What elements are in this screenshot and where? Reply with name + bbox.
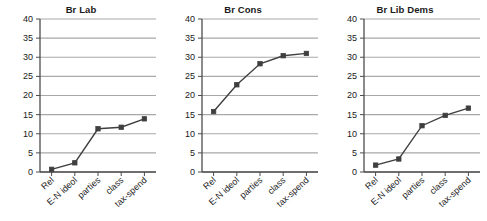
data-point-marker xyxy=(96,127,100,131)
y-tick-label: 15 xyxy=(23,110,33,120)
y-tick-label: 5 xyxy=(352,148,357,158)
multi-panel-line-chart: Br Lab0510152025303540RelE-N ideolpartie… xyxy=(0,0,487,221)
x-tick-label: Rel xyxy=(363,175,380,191)
y-tick-label: 10 xyxy=(347,129,357,139)
x-tick-label: parties xyxy=(238,175,265,201)
series-line xyxy=(376,108,469,165)
data-point-marker xyxy=(142,117,146,121)
y-tick-label: 5 xyxy=(28,148,33,158)
y-tick-label: 20 xyxy=(23,90,33,100)
y-tick-label: 30 xyxy=(185,52,195,62)
y-tick-label: 25 xyxy=(23,71,33,81)
plot-area: 0510152025303540RelE-N ideolpartiesclass… xyxy=(0,0,162,221)
y-tick-label: 20 xyxy=(185,90,195,100)
y-tick-label: 40 xyxy=(185,14,195,24)
data-point-marker xyxy=(281,54,285,58)
data-point-marker xyxy=(466,106,470,110)
y-tick-label: 15 xyxy=(185,110,195,120)
y-tick-label: 10 xyxy=(23,129,33,139)
y-tick-label: 35 xyxy=(23,33,33,43)
y-tick-label: 25 xyxy=(185,71,195,81)
data-point-marker xyxy=(235,83,239,87)
data-point-marker xyxy=(304,51,308,55)
data-point-marker xyxy=(373,163,377,167)
chart-panel: Br Lib Dems0510152025303540RelE-N ideolp… xyxy=(324,0,486,221)
plot-area: 0510152025303540RelE-N ideolpartiesclass… xyxy=(324,0,486,221)
y-tick-label: 20 xyxy=(347,90,357,100)
chart-panel: Br Cons0510152025303540RelE-N ideolparti… xyxy=(162,0,324,221)
y-tick-label: 30 xyxy=(347,52,357,62)
y-tick-label: 0 xyxy=(28,167,33,177)
chart-panel: Br Lab0510152025303540RelE-N ideolpartie… xyxy=(0,0,162,221)
y-tick-label: 15 xyxy=(347,110,357,120)
data-point-marker xyxy=(211,109,215,113)
plot-area: 0510152025303540RelE-N ideolpartiesclass… xyxy=(162,0,324,221)
data-point-marker xyxy=(443,113,447,117)
x-tick-label: Rel xyxy=(39,175,56,191)
x-tick-label: Rel xyxy=(201,175,218,191)
x-tick-label: parties xyxy=(400,175,427,201)
y-tick-label: 40 xyxy=(347,14,357,24)
data-point-marker xyxy=(258,62,262,66)
y-tick-label: 25 xyxy=(347,71,357,81)
y-tick-label: 5 xyxy=(190,148,195,158)
y-tick-label: 10 xyxy=(185,129,195,139)
y-tick-label: 40 xyxy=(23,14,33,24)
data-point-marker xyxy=(49,167,53,171)
data-point-marker xyxy=(397,157,401,161)
y-tick-label: 35 xyxy=(347,33,357,43)
data-point-marker xyxy=(119,125,123,129)
y-tick-label: 0 xyxy=(352,167,357,177)
y-tick-label: 30 xyxy=(23,52,33,62)
y-tick-label: 0 xyxy=(190,167,195,177)
x-tick-label: parties xyxy=(76,175,103,201)
data-point-marker xyxy=(420,124,424,128)
y-tick-label: 35 xyxy=(185,33,195,43)
data-point-marker xyxy=(73,161,77,165)
